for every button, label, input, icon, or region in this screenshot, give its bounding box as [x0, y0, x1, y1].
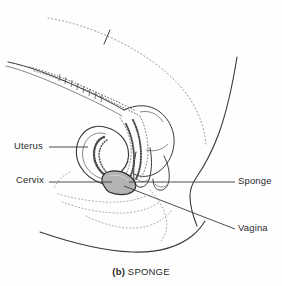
perineal-tissue-dotted-1 [58, 194, 146, 202]
perineal-tissue-dotted-2 [62, 202, 160, 213]
hand-knuckle-line [140, 111, 163, 122]
labia-dotted-contour [150, 190, 167, 242]
hand-palm-line [146, 144, 168, 151]
label-uterus: Uterus [14, 140, 43, 151]
leader-line-vagina [124, 186, 235, 229]
forearm-lower-edge [6, 66, 122, 116]
figure-caption: (b) SPONGE [0, 266, 282, 277]
uterus-fundus-curve [108, 128, 129, 172]
forearm-upper-edge [8, 62, 124, 110]
caption-index: (b) [112, 266, 125, 277]
thumbnail-arc [155, 184, 168, 187]
forearm-stipple [30, 67, 138, 115]
sponge-figure: Uterus Cervix Sponge Vagina (b) SPONGE [0, 0, 282, 286]
perineal-tissue-dotted-3 [86, 210, 172, 228]
caption-title: SPONGE [128, 266, 170, 277]
fingernail-arc [136, 178, 149, 182]
label-sponge: Sponge [238, 175, 272, 186]
bladder-dotted-contour [54, 172, 70, 189]
label-cervix: Cervix [16, 174, 44, 185]
body-contour-path [190, 57, 237, 226]
buttock-contour-path [40, 221, 205, 252]
label-vagina: Vagina [238, 222, 268, 233]
